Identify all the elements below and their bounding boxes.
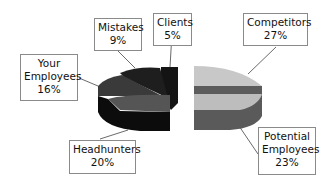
label-clients: Clients 5% [153,13,192,46]
label-value: 23% [262,156,312,169]
label-text: Competitors [247,16,304,29]
label-text: Employees [24,70,74,83]
label-text: Potential [262,130,312,143]
label-text: Headhunters [73,143,132,156]
label-value: 27% [247,29,304,42]
label-your-employees: Your Employees 16% [20,54,78,101]
label-text: Employees [262,143,312,156]
label-text: Your [24,57,74,70]
label-competitors: Competitors 27% [243,13,308,46]
label-potential-employees: Potential Employees 23% [258,127,316,175]
label-value: 20% [73,156,132,169]
slice-competitors [194,66,262,86]
label-mistakes: Mistakes 9% [94,18,142,51]
label-value: 16% [24,83,74,96]
label-headhunters: Headhunters 20% [69,140,136,174]
label-value: 9% [98,34,138,47]
label-text: Clients [157,16,188,29]
slice-group-light [194,66,262,130]
label-text: Mistakes [98,21,138,34]
label-value: 5% [157,29,188,42]
slice-group-dark [98,67,178,131]
